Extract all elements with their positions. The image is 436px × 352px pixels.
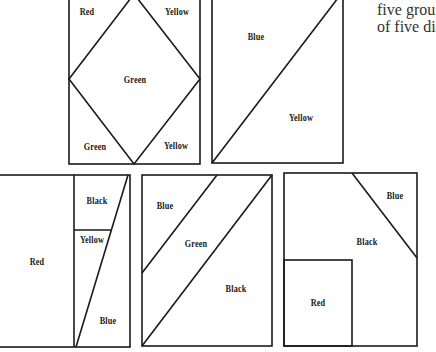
side-text-line-1: five grou [377,1,435,18]
panel-2-shapes [212,0,343,163]
panel-1-label-center: Green [124,74,147,85]
panel-5-label-main: Black [357,236,378,247]
panel-4-label-upper: Blue [157,200,174,211]
panel-4-label-lower: Black [226,283,247,294]
panel-3-label-middle: Yellow [80,234,104,245]
panel-5-label-inner: Red [311,297,326,308]
panel-2-label-upper: Blue [248,31,265,42]
panel-1-label-bottom-right: Yellow [164,140,188,151]
panel-1-label-top-left: Red [80,6,95,17]
panel-5-label-corner: Blue [387,190,404,201]
panel-3-label-bottom: Blue [100,315,117,326]
side-text-line-2: of five di [377,18,436,35]
panel-1-label-top-right: Yellow [165,6,189,17]
panel-3-label-left: Red [30,256,45,267]
panel-4-label-middle: Green [185,238,208,249]
panel-3-label-top: Black [87,195,108,206]
panel-1-label-bottom-left: Green [84,141,107,152]
panel-2-label-lower: Yellow [289,112,313,123]
